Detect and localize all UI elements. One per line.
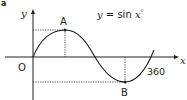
point-a xyxy=(64,29,67,32)
point-b xyxy=(124,81,127,84)
origin-label: O xyxy=(18,62,26,73)
point-a-label: A xyxy=(60,16,67,27)
equation-label: y = sin x° xyxy=(96,8,144,20)
sine-curve xyxy=(33,30,154,82)
x-axis-arrow-icon xyxy=(174,55,179,59)
tick-label-360: 360 xyxy=(147,66,165,77)
y-axis-label: y xyxy=(20,8,27,19)
equation-operator: = sin xyxy=(103,9,135,20)
x-axis-label: x xyxy=(180,55,186,66)
point-b-label: B xyxy=(121,87,128,98)
equation-degree: ° xyxy=(141,8,144,15)
part-label: a xyxy=(1,0,6,8)
sine-graph: a y x O A B 360 y = sin x° xyxy=(0,0,187,100)
y-axis-arrow-icon xyxy=(31,9,35,14)
